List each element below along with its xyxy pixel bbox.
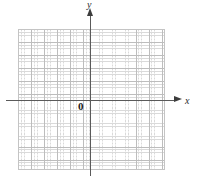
x-axis-arrow-icon bbox=[174, 96, 182, 102]
origin-label: 0 bbox=[78, 101, 84, 112]
x-axis-line bbox=[6, 100, 176, 101]
y-axis-line bbox=[90, 15, 91, 176]
y-axis-label: y bbox=[87, 0, 91, 10]
coordinate-grid-figure: x y 0 bbox=[0, 0, 198, 185]
x-axis-label: x bbox=[185, 96, 189, 106]
